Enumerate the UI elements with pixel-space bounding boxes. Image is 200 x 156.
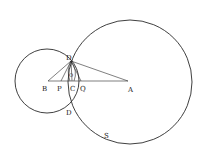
label-D-bottom: D	[66, 109, 72, 117]
geometry-figure: D O B P C Q A D S	[0, 0, 200, 156]
label-B: B	[42, 85, 47, 93]
label-Q: Q	[80, 85, 86, 93]
label-D-top: D	[66, 54, 72, 62]
line-DB	[48, 61, 71, 81]
label-O: O	[69, 72, 73, 78]
label-P: P	[57, 85, 62, 93]
label-C: C	[70, 85, 75, 93]
line-DC	[71, 61, 72, 81]
large-circle	[68, 20, 192, 144]
label-S: S	[104, 132, 109, 140]
label-A: A	[127, 86, 134, 94]
